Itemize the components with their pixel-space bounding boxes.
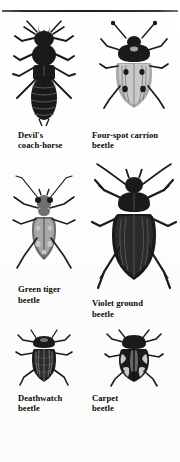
violet-ground-beetle-illustration [90, 156, 178, 296]
caption-green-tiger-beetle: Green tiger beetle [18, 284, 88, 304]
caption-line-1: Carpet [92, 393, 118, 403]
carpet-beetle-illustration [103, 327, 165, 389]
caption-four-spot-carrion-beetle: Four-spot carrion beetle [92, 130, 180, 150]
specimen-deathwatch-beetle: Deathwatch beetle [0, 327, 88, 413]
caption-line-2: beetle [92, 140, 114, 150]
caption-line-1: Devil's [18, 130, 43, 140]
caption-line-2: coach-horse [18, 140, 62, 150]
caption-deathwatch-beetle: Deathwatch beetle [18, 393, 88, 413]
page-top-rule [2, 10, 178, 12]
devils-coach-horse-illustration [9, 16, 79, 130]
specimen-four-spot-carrion-beetle: Four-spot carrion beetle [88, 16, 180, 150]
caption-devils-coach-horse: Devil's coach-horse [18, 130, 88, 150]
caption-line-1: Deathwatch [18, 393, 62, 403]
caption-line-1: Four-spot carrion [92, 130, 158, 140]
caption-carpet-beetle: Carpet beetle [92, 393, 180, 413]
specimen-green-tiger-beetle: Green tiger beetle [0, 164, 88, 318]
specimen-devils-coach-horse: Devil's coach-horse [0, 16, 88, 150]
caption-line-2: beetle [18, 295, 40, 305]
caption-line-1: Green tiger [18, 284, 61, 294]
deathwatch-beetle-illustration [13, 327, 75, 389]
plate-row-2: Green tiger beetle [0, 164, 180, 318]
four-spot-carrion-beetle-illustration [98, 16, 170, 130]
caption-violet-ground-beetle: Violet ground beetle [92, 298, 180, 318]
plate-row-1: Devil's coach-horse [0, 16, 180, 150]
caption-line-2: beetle [92, 403, 114, 413]
caption-line-2: beetle [92, 309, 114, 319]
caption-line-2: beetle [18, 403, 40, 413]
caption-line-1: Violet ground [92, 298, 143, 308]
plate-row-3: Deathwatch beetle [0, 327, 180, 413]
specimen-carpet-beetle: Carpet beetle [88, 327, 180, 413]
green-tiger-beetle-illustration [8, 164, 80, 282]
specimen-violet-ground-beetle: Violet ground beetle [88, 164, 180, 318]
beetle-plate: Devil's coach-horse [0, 16, 180, 413]
